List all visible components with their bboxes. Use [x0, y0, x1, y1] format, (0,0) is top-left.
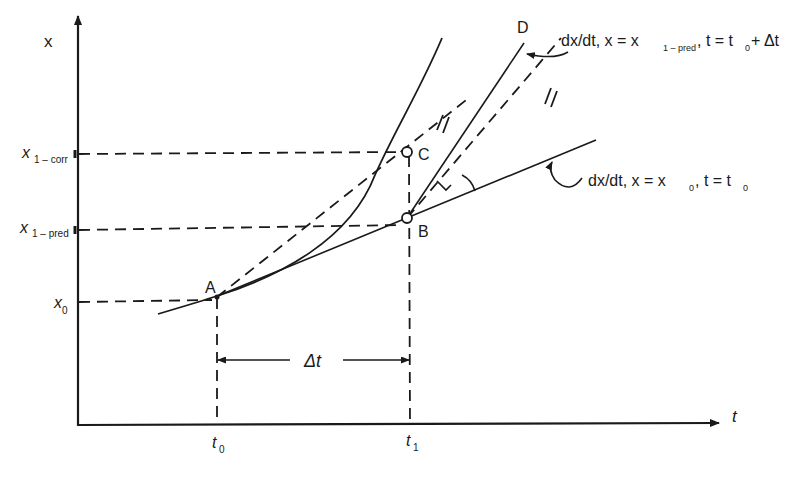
label-C: C [418, 146, 430, 163]
svg-text:1 – pred: 1 – pred [663, 43, 696, 53]
solution-curve [158, 38, 442, 314]
angle-arc-inner [437, 181, 451, 190]
y-tick-x0: x 0 [53, 294, 68, 316]
guide-x0 [79, 300, 212, 302]
svg-text:0: 0 [743, 183, 748, 193]
parallel-marks [437, 88, 557, 133]
delta-t-label: Δt [303, 351, 322, 371]
angle-arc-outer [462, 175, 475, 191]
svg-text:1 – corr: 1 – corr [34, 154, 69, 165]
svg-text:t: t [406, 432, 411, 449]
x-axis-label: t [732, 407, 738, 426]
x-axis [77, 423, 719, 425]
y-axis-label: x [44, 32, 53, 51]
point-C [402, 147, 412, 157]
vertical-guides [217, 156, 410, 424]
svg-text:dx/dt, x = x: dx/dt, x = x [561, 32, 639, 49]
label-D: D [517, 19, 529, 36]
y-tick-x1-corr: x 1 – corr [21, 144, 69, 165]
horizontal-guides [79, 152, 402, 302]
svg-text:0: 0 [62, 305, 68, 316]
x-tick-t1: t 1 [406, 432, 419, 453]
svg-text:1: 1 [413, 442, 419, 453]
svg-text:x: x [19, 219, 29, 236]
svg-text:, t = t: , t = t [697, 32, 734, 49]
slope-line-BD [407, 43, 524, 218]
svg-text:0: 0 [219, 444, 225, 455]
x-tick-t0: t 0 [212, 434, 225, 455]
svg-text:+ Δt: + Δt [751, 32, 780, 49]
annotation-arrow-tangent [551, 162, 582, 187]
annotation-slope-x1pred: dx/dt, x = x 1 – pred , t = t 0 + Δt [561, 32, 780, 53]
svg-text:1 – pred: 1 – pred [32, 228, 69, 239]
averaged-slope-AC [217, 97, 470, 297]
svg-text:x: x [21, 144, 31, 161]
svg-text:0: 0 [689, 183, 694, 193]
guide-t1 [409, 156, 410, 424]
guide-x1-pred [79, 225, 402, 230]
point-B [402, 213, 412, 223]
predictor-corrector-diagram: x t Δt A B C D [0, 0, 805, 480]
label-B: B [418, 223, 429, 240]
guide-x1-corr [79, 152, 402, 154]
label-A: A [205, 279, 216, 296]
svg-text:t: t [212, 434, 217, 451]
annotation-slope-x0: dx/dt, x = x 0 , t = t 0 [588, 172, 748, 193]
svg-text:dx/dt, x = x: dx/dt, x = x [588, 172, 666, 189]
svg-text:0: 0 [745, 43, 750, 53]
svg-text:, t = t: , t = t [695, 172, 732, 189]
y-tick-x1-pred: x 1 – pred [19, 219, 69, 239]
